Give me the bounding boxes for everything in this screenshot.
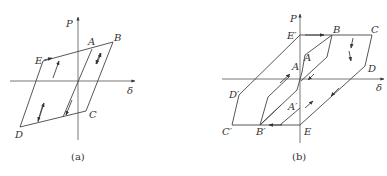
point-a-upper: A [303,52,311,63]
point-b-prime: B′ [255,126,266,137]
arrow-icon [53,61,59,78]
point-a-prime: A′ [287,101,298,112]
point-a: A [87,36,95,47]
point-e: E [303,126,312,137]
arrow-icon [349,51,351,61]
p-label: P [65,18,73,29]
point-c: C [371,24,379,35]
caption-b: (b) [292,151,306,162]
caption-a: (a) [71,151,85,162]
point-b: B [332,24,340,35]
arrow-icon [38,104,43,121]
arrow-icon [331,88,339,96]
point-b: B [113,32,121,43]
arrow-icon [280,74,290,83]
point-d-prime: D′ [228,89,240,100]
point-d: D [367,63,376,74]
panel-a: P δ A B C D E (a) [10,17,135,162]
point-e: E [34,55,43,66]
point-d: D [14,129,23,140]
delta-label: δ [376,82,382,93]
point-e-prime: E′ [286,30,297,41]
p-label: P [289,13,297,24]
hysteresis-diagram: P δ A B C D E (a) P δ E′ B C D A [0,0,387,176]
arrow-icon [305,101,313,108]
delta-label: δ [127,85,133,96]
point-c: C [89,109,97,120]
arrow-icon [351,38,353,48]
panel-b: P δ E′ B C D A A D′ A′ C′ B′ E (b) [222,13,384,162]
point-a-lower: A [291,61,299,72]
point-c-prime: C′ [222,126,233,137]
